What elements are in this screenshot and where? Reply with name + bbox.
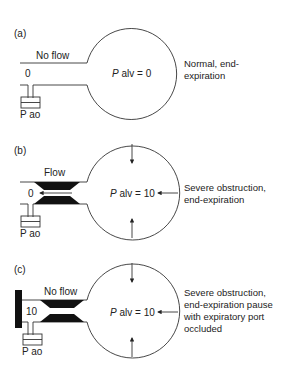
svg-text:end-expiration pause: end-expiration pause — [184, 299, 273, 310]
panel-c: (c) No flow 10 P ao P alv = 10 Severe ob… — [14, 263, 273, 358]
panel-a: (a) No flow 0 P ao P alv = 0 Normal, end… — [14, 28, 239, 120]
pressure-gauge-icon — [23, 322, 42, 345]
panel-b: (b) Flow 0 P ao P alv = 10 Severe obstru… — [14, 144, 266, 240]
svg-text:with expiratory port: with expiratory port — [183, 311, 265, 322]
panel-description: Severe obstruction, end-expiration pause… — [183, 287, 273, 334]
svg-text:Normal, end-: Normal, end- — [184, 58, 239, 69]
obstruction-upper — [40, 300, 84, 308]
panel-label: (b) — [14, 145, 26, 156]
airway-pressure-value: 10 — [26, 306, 38, 317]
panel-label: (c) — [14, 264, 26, 275]
svg-text:Severe obstruction,: Severe obstruction, — [184, 182, 266, 193]
svg-text:expiration: expiration — [184, 70, 225, 81]
svg-text:occluded: occluded — [184, 323, 222, 334]
diagram-canvas: (a) No flow 0 P ao P alv = 0 Normal, end… — [0, 0, 289, 373]
gauge-label: P ao — [20, 228, 41, 239]
gauge-label: P ao — [22, 346, 43, 357]
alveolar-pressure: P alv = 10 — [110, 188, 155, 199]
panel-description: Severe obstruction, end-expiration — [184, 182, 266, 205]
obstruction-lower — [34, 196, 80, 204]
obstruction-lower — [40, 314, 84, 322]
alveolar-pressure: P alv = 10 — [110, 307, 155, 318]
flow-label: Flow — [44, 167, 66, 178]
alveolar-pressure: P alv = 0 — [112, 68, 152, 79]
flow-label: No flow — [36, 50, 70, 61]
airway-pressure-value: 0 — [25, 68, 31, 79]
panel-label: (a) — [14, 28, 26, 39]
panel-description: Normal, end- expiration — [184, 58, 239, 81]
obstruction-upper — [34, 182, 80, 190]
airway-pressure-value: 0 — [28, 188, 34, 199]
gauge-label: P ao — [20, 109, 41, 120]
svg-text:Severe obstruction,: Severe obstruction, — [184, 287, 266, 298]
flow-label: No flow — [44, 286, 78, 297]
pressure-gauge-icon — [21, 204, 40, 227]
occlusion-plug — [15, 290, 22, 328]
pressure-gauge-icon — [21, 85, 40, 108]
svg-text:end-expiration: end-expiration — [184, 194, 244, 205]
